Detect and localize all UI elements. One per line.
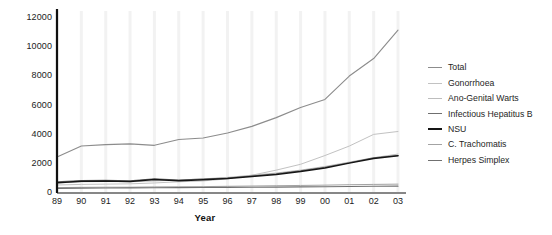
- line-chart: 020004000600080001000012000 899091929394…: [0, 0, 552, 235]
- x-tick-label: 97: [247, 196, 257, 206]
- x-tick-label: 00: [320, 196, 330, 206]
- y-tick-label: 8000: [32, 70, 52, 80]
- legend-line-swatch: [428, 113, 442, 114]
- legend-label: Ano-Genital Warts: [448, 94, 519, 103]
- plot-area: 020004000600080001000012000 899091929394…: [0, 0, 410, 235]
- x-tick-label: 96: [222, 196, 232, 206]
- legend-label: Infectious Hepatitus B: [448, 110, 533, 119]
- legend-item[interactable]: Herpes Simplex: [428, 152, 552, 167]
- legend-line-swatch: [428, 67, 442, 68]
- x-tick-label: 93: [149, 196, 159, 206]
- x-axis-title: Year: [0, 212, 410, 223]
- legend-item[interactable]: C. Trachomatis: [428, 137, 552, 152]
- legend-label: Herpes Simplex: [448, 156, 509, 165]
- x-tick-label: 03: [393, 196, 403, 206]
- legend-line-swatch: [428, 98, 442, 99]
- chart-legend: TotalGonorrhoeaAno-Genital WartsInfectio…: [428, 60, 552, 168]
- legend-line-swatch: [428, 144, 442, 145]
- x-tick-label: 98: [271, 196, 281, 206]
- legend-item[interactable]: Gonorrhoea: [428, 75, 552, 90]
- x-tick-label: 94: [174, 196, 184, 206]
- legend-line-swatch: [428, 160, 442, 161]
- legend-item[interactable]: NSU: [428, 122, 552, 137]
- x-tick-label: 95: [198, 196, 208, 206]
- x-axis-ticks: 899091929394959697989900010203: [0, 196, 410, 210]
- x-tick-label: 99: [296, 196, 306, 206]
- gridlines: [57, 11, 398, 192]
- legend-line-swatch: [428, 128, 442, 130]
- x-tick-label: 89: [52, 196, 62, 206]
- y-tick-label: 2000: [32, 158, 52, 168]
- x-tick-label: 90: [76, 196, 86, 206]
- x-tick-label: 02: [369, 196, 379, 206]
- legend-label: NSU: [448, 125, 466, 134]
- legend-item[interactable]: Total: [428, 60, 552, 75]
- y-tick-label: 10000: [26, 41, 52, 51]
- x-tick-label: 01: [344, 196, 354, 206]
- y-tick-label: 6000: [32, 100, 52, 110]
- legend-item[interactable]: Infectious Hepatitus B: [428, 106, 552, 121]
- legend-line-swatch: [428, 83, 442, 84]
- y-tick-label: 4000: [32, 129, 52, 139]
- legend-item[interactable]: Ano-Genital Warts: [428, 91, 552, 106]
- legend-label: C. Trachomatis: [448, 140, 506, 149]
- legend-label: Total: [448, 63, 466, 72]
- legend-label: Gonorrhoea: [448, 79, 494, 88]
- x-tick-label: 91: [101, 196, 111, 206]
- y-tick-label: 12000: [26, 12, 52, 22]
- x-tick-label: 92: [125, 196, 135, 206]
